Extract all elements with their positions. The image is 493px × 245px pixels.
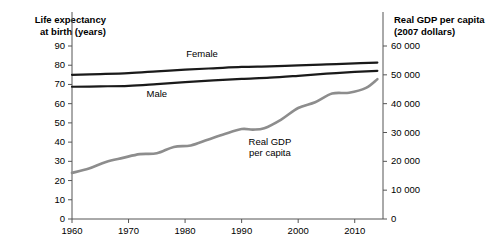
left-tick-label: 30 — [17, 155, 65, 166]
left-tick-label: 90 — [17, 40, 65, 51]
x-tick-label: 1990 — [222, 225, 262, 236]
right-tick-label: 30 000 — [391, 127, 451, 138]
left-tick-label: 50 — [17, 117, 65, 128]
right-tick-label: 40 000 — [391, 98, 451, 109]
chart-figure: Life expectancy at birth (years) Real GD… — [0, 0, 493, 245]
left-tick-label: 0 — [17, 213, 65, 224]
left-tick-label: 20 — [17, 175, 65, 186]
series-line-real-gdp-per-capita — [72, 79, 377, 173]
gdp-label: Real GDP per capita — [235, 136, 305, 158]
chart-plot-area — [0, 0, 493, 245]
right-tick-label: 20 000 — [391, 155, 451, 166]
data-series-group — [72, 63, 377, 173]
left-tick-label: 80 — [17, 59, 65, 70]
x-tick-label: 1960 — [52, 225, 92, 236]
x-tick-label: 2010 — [335, 225, 375, 236]
right-tick-label: 0 — [391, 213, 451, 224]
right-tick-label: 10 000 — [391, 184, 451, 195]
left-tick-label: 10 — [17, 194, 65, 205]
x-tick-label: 1980 — [165, 225, 205, 236]
x-tick-label: 1970 — [109, 225, 149, 236]
female-label: Female — [167, 48, 237, 59]
x-tick-label: 2000 — [278, 225, 318, 236]
left-tick-label: 60 — [17, 98, 65, 109]
left-tick-label: 40 — [17, 136, 65, 147]
axis-lines — [72, 12, 383, 219]
right-tick-label: 60 000 — [391, 40, 451, 51]
male-label: Male — [122, 88, 192, 99]
right-tick-label: 50 000 — [391, 69, 451, 80]
left-tick-label: 70 — [17, 78, 65, 89]
